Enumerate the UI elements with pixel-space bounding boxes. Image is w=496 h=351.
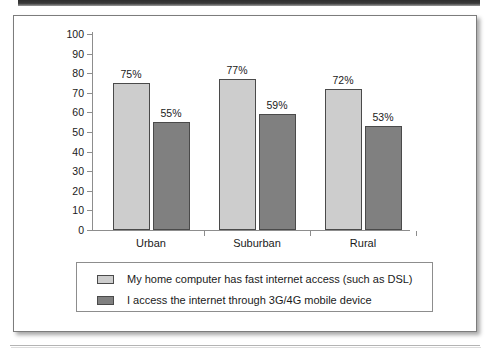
legend-label-1: I access the internet through 3G/4G mobi… (127, 295, 372, 306)
x-axis-label-urban: Urban (98, 237, 204, 249)
x-axis-tick (204, 231, 205, 236)
bar-value-label: 53% (357, 112, 410, 123)
y-axis-tick (87, 54, 92, 55)
x-axis-label-rural: Rural (310, 237, 416, 249)
y-axis-tick (87, 152, 92, 153)
page-bottom-rule (10, 345, 480, 346)
chart-panel: 1009080706050403020100 75%55%77%59%72%53… (13, 15, 477, 332)
y-axis-tick-label: 70 (52, 88, 84, 99)
bar-value-label: 55% (145, 108, 198, 119)
y-axis-tick-label: 90 (52, 48, 84, 59)
bar-suburban-series-1 (259, 114, 296, 230)
y-axis-tick-label: 60 (52, 107, 84, 118)
bar-urban-series-1 (153, 122, 190, 230)
y-axis-tick-label: 100 (52, 29, 84, 40)
bar-value-label: 72% (317, 75, 370, 86)
x-axis-label-suburban: Suburban (204, 237, 310, 249)
bar-value-label: 77% (211, 65, 264, 76)
y-axis-tick-label: 40 (52, 146, 84, 157)
legend-swatch-icon-1 (97, 296, 114, 305)
y-axis-tick-label: 80 (52, 68, 84, 79)
y-axis-tick (87, 191, 92, 192)
y-axis-tick (87, 112, 92, 113)
legend-item-1[interactable]: I access the internet through 3G/4G mobi… (97, 293, 372, 307)
x-axis-tick (416, 231, 417, 236)
y-axis-tick-label: 20 (52, 186, 84, 197)
y-axis-line (92, 32, 93, 231)
y-axis-tick (87, 73, 92, 74)
bar-rural-series-0 (325, 89, 362, 230)
x-axis-tick (310, 231, 311, 236)
y-axis-tick-label: 30 (52, 166, 84, 177)
bar-rural-series-1 (365, 126, 402, 230)
y-axis-tick (87, 34, 92, 35)
x-axis-line (92, 230, 410, 231)
y-axis-tick (87, 210, 92, 211)
y-axis-tick-label: 0 (52, 225, 84, 236)
y-axis-tick (87, 230, 92, 231)
bar-value-label: 75% (105, 69, 158, 80)
chart-legend: My home computer has fast internet acces… (76, 262, 433, 312)
legend-swatch-icon-0 (97, 275, 114, 284)
bar-value-label: 59% (251, 100, 304, 111)
y-axis-tick (87, 93, 92, 94)
bar-urban-series-0 (113, 83, 150, 230)
legend-item-0[interactable]: My home computer has fast internet acces… (97, 272, 413, 286)
y-axis-tick-label: 50 (52, 127, 84, 138)
y-axis-tick (87, 132, 92, 133)
page-top-band (18, 0, 480, 6)
y-axis-tick (87, 171, 92, 172)
legend-label-0: My home computer has fast internet acces… (127, 274, 413, 285)
y-axis-tick-label: 10 (52, 205, 84, 216)
